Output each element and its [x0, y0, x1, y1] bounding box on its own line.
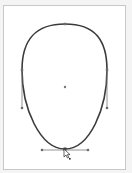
right-handle-point[interactable] [106, 107, 109, 110]
bottom-right-handle-point[interactable] [87, 149, 90, 152]
anchor-top[interactable] [64, 23, 66, 25]
left-handle-point[interactable] [21, 107, 24, 110]
bottom-left-handle-point[interactable] [41, 149, 44, 152]
arrow-cursor-icon [64, 149, 71, 160]
anchor-left[interactable] [21, 69, 23, 71]
bezier-handles[interactable] [22, 70, 107, 150]
vector-path-layer[interactable] [0, 0, 132, 173]
center-point [64, 86, 66, 88]
anchor-right[interactable] [106, 69, 108, 71]
